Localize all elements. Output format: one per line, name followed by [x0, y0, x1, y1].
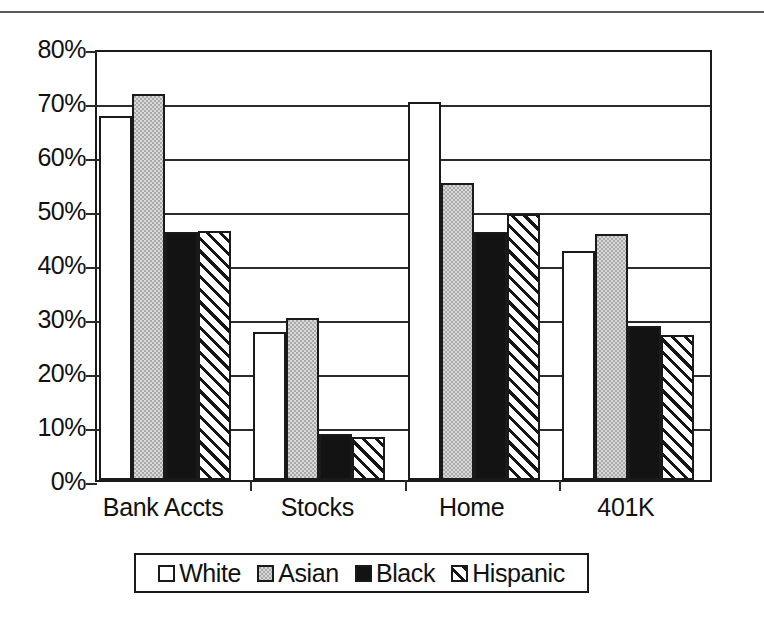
- y-tick-mark: [86, 321, 97, 323]
- legend-swatch-white-icon: [158, 565, 175, 582]
- legend-swatch-black-icon: [355, 565, 372, 582]
- y-tick-mark: [86, 483, 97, 485]
- bar-home-white: [408, 102, 441, 480]
- bar-home-hispanic: [507, 214, 540, 480]
- bar-stocks-white: [253, 332, 286, 481]
- y-tick-label: 70%: [20, 91, 86, 116]
- y-tick-label: 0%: [20, 469, 86, 494]
- y-tick-mark: [86, 429, 97, 431]
- legend-label: Asian: [278, 561, 339, 586]
- bar-bank-accts-black: [165, 232, 198, 480]
- y-tick-label: 30%: [20, 307, 86, 332]
- legend-entry-white: White: [158, 561, 241, 586]
- y-tick-label: 50%: [20, 199, 86, 224]
- y-tick-label: 10%: [20, 415, 86, 440]
- x-tick-label-401k: 401K: [530, 492, 722, 522]
- bar-stocks-black: [319, 434, 352, 480]
- y-tick-label: 20%: [20, 361, 86, 386]
- chart-legend: WhiteAsianBlackHispanic: [134, 553, 589, 593]
- x-axis: Bank AcctsStocksHome401K: [95, 492, 712, 526]
- bar-chart-figure: 0%10%20%30%40%50%60%70%80% Bank AcctsSto…: [0, 0, 764, 627]
- bar-stocks-hispanic: [352, 437, 385, 480]
- y-tick-mark: [86, 105, 97, 107]
- bar-bank-accts-white: [99, 116, 132, 481]
- y-tick-label: 80%: [20, 37, 86, 62]
- y-tick-mark: [86, 213, 97, 215]
- legend-label: White: [179, 561, 241, 586]
- y-tick-mark: [86, 51, 97, 53]
- x-tick-mark: [405, 480, 407, 491]
- bars-layer: [97, 52, 710, 480]
- y-axis: 0%10%20%30%40%50%60%70%80%: [12, 0, 86, 627]
- bar-bank-accts-asian: [132, 94, 165, 480]
- bar-401k-white: [562, 251, 595, 481]
- x-tick-mark: [559, 480, 561, 491]
- legend-entry-black: Black: [355, 561, 435, 586]
- legend-swatch-asian-icon: [257, 565, 274, 582]
- y-tick-mark: [86, 159, 97, 161]
- plot-area: [95, 50, 712, 482]
- y-tick-label: 40%: [20, 253, 86, 278]
- bar-401k-asian: [595, 234, 628, 480]
- legend-entry-asian: Asian: [257, 561, 339, 586]
- legend-swatch-hispanic-icon: [451, 565, 468, 582]
- legend-entry-hispanic: Hispanic: [451, 561, 565, 586]
- y-tick-mark: [86, 375, 97, 377]
- bar-401k-hispanic: [661, 335, 694, 480]
- bar-stocks-asian: [286, 318, 319, 480]
- bar-home-black: [474, 232, 507, 480]
- x-tick-mark: [250, 480, 252, 491]
- bar-home-asian: [441, 183, 474, 480]
- bar-bank-accts-hispanic: [198, 231, 231, 480]
- y-tick-mark: [86, 267, 97, 269]
- y-tick-label: 60%: [20, 145, 86, 170]
- bar-401k-black: [628, 326, 661, 480]
- legend-label: Black: [376, 561, 435, 586]
- legend-label: Hispanic: [472, 561, 565, 586]
